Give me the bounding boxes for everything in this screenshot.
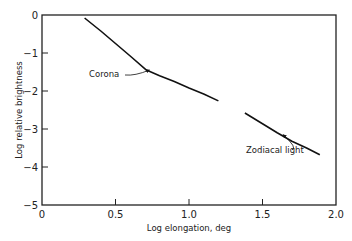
series-line-corona bbox=[85, 18, 219, 101]
y-axis-label: Log relative brightness bbox=[14, 61, 24, 159]
y-tick-label: −2 bbox=[23, 86, 38, 97]
x-ticks: 00.51.01.52.0 bbox=[39, 199, 344, 220]
chart: 00.51.01.52.0 0−1−2−3−4−5 CoronaZodiacal… bbox=[0, 0, 352, 241]
x-tick-label: 0.5 bbox=[108, 209, 124, 220]
y-tick-label: −1 bbox=[23, 48, 38, 59]
y-tick-label: 0 bbox=[32, 10, 38, 21]
annotation-label: Zodiacal light bbox=[246, 145, 304, 155]
annotation-arrow bbox=[125, 70, 149, 75]
y-tick-label: −3 bbox=[23, 124, 38, 135]
x-tick-label: 1.5 bbox=[255, 209, 271, 220]
annotations-group: CoronaZodiacal light bbox=[89, 69, 304, 155]
y-tick-label: −5 bbox=[23, 200, 38, 211]
x-axis-label: Log elongation, deg bbox=[147, 223, 231, 233]
y-tick-label: −4 bbox=[23, 162, 38, 173]
x-tick-label: 2.0 bbox=[328, 209, 344, 220]
x-tick-label: 1.0 bbox=[181, 209, 197, 220]
annotation-label: Corona bbox=[89, 69, 119, 79]
plot-frame bbox=[42, 15, 336, 205]
series-group bbox=[85, 18, 320, 155]
x-tick-label: 0 bbox=[39, 209, 45, 220]
y-ticks: 0−1−2−3−4−5 bbox=[23, 10, 48, 211]
